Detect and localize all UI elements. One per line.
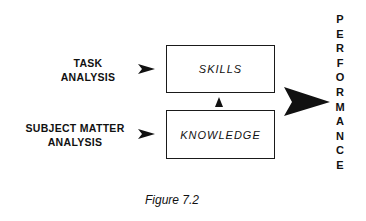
arrow-up-icon [215,97,223,107]
arrow-right-icon [138,64,155,74]
large-arrow-right-icon [284,87,330,116]
figure-caption: Figure 7.2 [145,193,199,207]
letter: E [333,27,347,42]
letter: R [333,41,347,56]
arrow-right-icon [138,129,155,139]
letter: A [333,114,347,129]
letter: O [333,70,347,85]
letter: E [333,158,347,173]
letter: C [333,143,347,158]
letter: N [333,129,347,144]
letter: M [333,100,347,115]
letter: R [333,85,347,100]
letter: F [333,56,347,71]
arrows-layer [0,0,366,221]
letter: P [333,12,347,27]
performance-label: P E R F O R M A N C E [333,12,347,173]
